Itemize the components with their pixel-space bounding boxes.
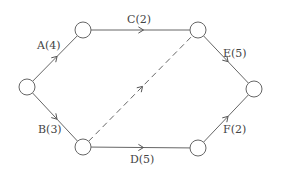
network-diagram: A(4) B(3) C(2) D(5) E(5) F(2)	[0, 0, 283, 176]
labels-layer: A(4) B(3) C(2) D(5) E(5) F(2)	[36, 13, 247, 166]
node-start	[19, 79, 35, 95]
edge-label-c: C(2)	[127, 13, 151, 26]
node-end	[246, 81, 262, 97]
node-top-left	[75, 22, 91, 38]
node-bottom-right	[190, 140, 206, 156]
edge-label-d: D(5)	[130, 153, 154, 166]
edge-label-a: A(4)	[36, 39, 61, 52]
edge-label-f: F(2)	[223, 123, 246, 136]
edges-layer	[32, 27, 248, 151]
edge-dummy	[89, 36, 193, 142]
edge-label-e: E(5)	[223, 47, 247, 60]
node-bottom-left	[75, 139, 91, 155]
node-top-right	[190, 22, 206, 38]
edge-d	[91, 147, 190, 148]
edge-label-b: B(3)	[38, 123, 62, 136]
